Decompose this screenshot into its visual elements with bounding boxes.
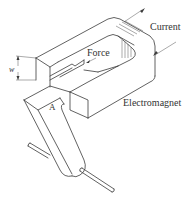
force-label: Force xyxy=(87,47,110,58)
current-arrows xyxy=(124,8,176,56)
electromagnet-diagram: Current Force Electromagnet A w xyxy=(0,0,192,202)
force-arrow-head-icon xyxy=(86,60,90,63)
arrow-head-icon xyxy=(140,8,145,13)
current-label: Current xyxy=(150,21,181,32)
armature xyxy=(24,86,85,177)
width-dimension xyxy=(16,56,36,80)
width-label: w xyxy=(9,65,15,74)
armature-label: A xyxy=(49,102,56,112)
pivot-rods xyxy=(28,143,114,192)
electromagnet-label: Electromagnet xyxy=(123,97,182,108)
